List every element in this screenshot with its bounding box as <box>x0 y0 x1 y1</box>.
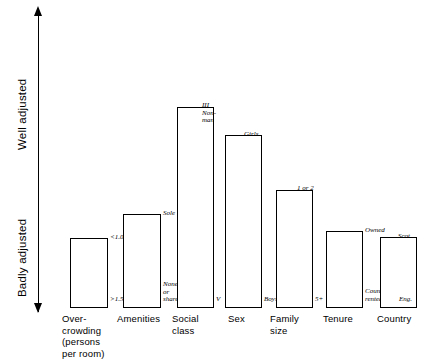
bar-family-size <box>276 190 313 308</box>
category-label-tenure: Tenure <box>323 313 378 325</box>
bar-bottom-label-social-class: V <box>216 296 220 304</box>
bar-social-class <box>177 107 214 308</box>
category-label-family-size: Family size <box>270 313 320 336</box>
bar-top-label-social-class: III Non- man <box>202 102 216 125</box>
bar-over-crowding <box>70 238 108 308</box>
bar-amenities <box>123 214 161 308</box>
bar-top-label-tenure: Owned <box>365 227 385 235</box>
category-label-country: Country <box>377 313 430 325</box>
category-label-sex: Sex <box>228 313 268 325</box>
bar-top-label-amenities: Sole <box>163 210 175 218</box>
category-label-social-class: Social class <box>172 313 222 336</box>
bar-bottom-label-country: Eng. <box>399 296 412 304</box>
bar-bottom-label-over-crowding: >1.5 <box>110 296 123 304</box>
bar-top-label-country: Scot. <box>398 233 412 241</box>
bar-top-label-sex: Girls <box>244 131 258 139</box>
bar-top-label-over-crowding: <1.0 <box>110 234 123 242</box>
bar-tenure <box>326 231 363 308</box>
bar-top-label-family-size: 1 or 2 <box>297 185 314 193</box>
category-label-over-crowding: Over- crowding (persons per room) <box>62 313 122 359</box>
bar-sex <box>225 135 262 308</box>
category-label-amenities: Amenities <box>117 313 177 325</box>
bar-bottom-label-family-size: 5+ <box>315 296 323 304</box>
